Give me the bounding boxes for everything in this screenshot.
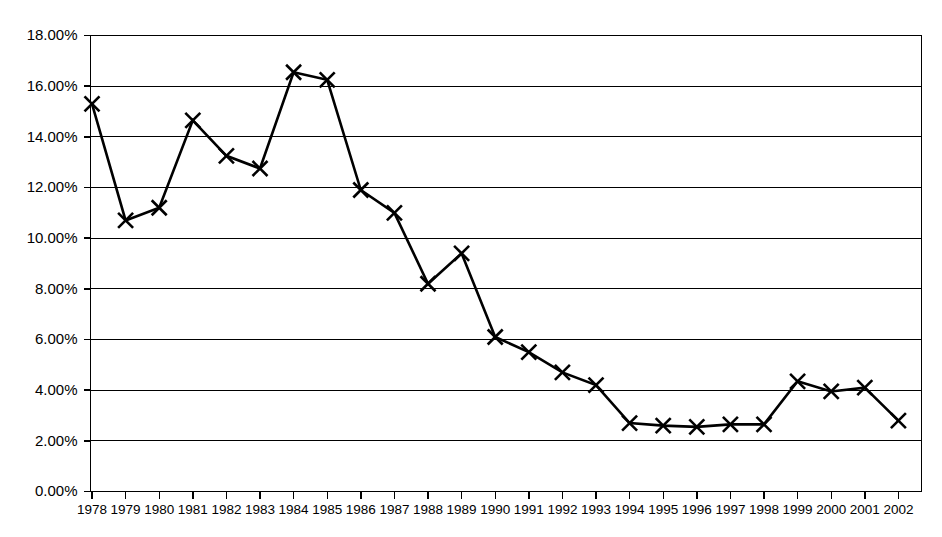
x-axis-tick-label: 1983 [245,502,275,517]
data-point-marker [387,205,402,220]
x-axis-tick-label: 1987 [379,502,409,517]
x-axis-tick-label: 1993 [581,502,611,517]
data-line-series [92,72,898,427]
data-point-marker [454,246,469,261]
y-axis-tick-label: 2.00% [35,432,78,449]
x-axis-tick-label: 1992 [547,502,577,517]
x-axis-tick-label: 1999 [783,502,813,517]
x-axis-tick-label: 1991 [514,502,544,517]
x-axis-tick-label: 1997 [715,502,745,517]
x-axis-tick-label: 2000 [816,502,846,517]
data-point-marker [488,329,503,344]
x-axis-ticks [92,492,898,499]
data-point-marker [790,374,805,389]
data-point-marker [555,365,570,380]
data-point-marker [185,113,200,128]
y-axis-tick-label: 12.00% [27,178,78,195]
y-axis-tick-label: 10.00% [27,229,78,246]
x-axis-tick-label: 1996 [682,502,712,517]
y-axis-tick-label: 4.00% [35,381,78,398]
x-axis-tick-label: 1998 [749,502,779,517]
x-axis-tick-label: 1988 [413,502,443,517]
data-point-marker [253,161,268,176]
data-point-marker [152,200,167,215]
x-axis-tick-label: 1990 [480,502,510,517]
x-axis-tick-label: 1980 [144,502,174,517]
x-axis-tick-label: 1981 [178,502,208,517]
x-axis-tick-label: 1978 [77,502,107,517]
x-axis-tick-label: 1986 [346,502,376,517]
x-axis-tick-label: 1985 [312,502,342,517]
y-axis-tick-label: 18.00% [27,26,78,43]
data-point-marker [219,148,234,163]
x-axis-tick-label: 1989 [447,502,477,517]
y-axis-tick-labels: 0.00%2.00%4.00%6.00%8.00%10.00%12.00%14.… [27,26,78,499]
data-point-marker [85,96,100,111]
data-point-markers [85,65,906,435]
x-axis-tick-label: 1984 [279,502,310,517]
x-axis-tick-label: 2001 [850,502,880,517]
x-axis-tick-label: 2002 [883,502,913,517]
y-axis-tick-label: 16.00% [27,77,78,94]
y-axis-tick-label: 0.00% [35,482,78,499]
x-axis-tick-label: 1979 [111,502,141,517]
data-point-marker [521,345,536,360]
data-point-marker [118,213,133,228]
plot-frame [91,36,922,492]
gridlines [91,86,922,441]
data-point-marker [353,183,368,198]
y-axis-ticks [84,36,91,492]
line-chart: 0.00%2.00%4.00%6.00%8.00%10.00%12.00%14.… [0,0,942,537]
x-axis-tick-label: 1982 [211,502,241,517]
chart-container: 0.00%2.00%4.00%6.00%8.00%10.00%12.00%14.… [0,0,942,537]
y-axis-tick-label: 14.00% [27,128,78,145]
y-axis-tick-label: 8.00% [35,280,78,297]
data-point-marker [891,413,906,428]
y-axis-tick-label: 6.00% [35,330,78,347]
x-axis-tick-label: 1995 [648,502,678,517]
x-axis-tick-label: 1994 [615,502,646,517]
x-axis-tick-labels: 1978197919801981198219831984198519861987… [77,502,913,517]
